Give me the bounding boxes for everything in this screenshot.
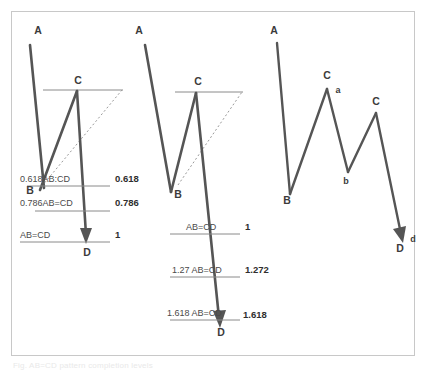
panel-left-level-text-0786: 0.786AB=CD — [20, 198, 73, 208]
panel-right-label-A: A — [270, 24, 278, 36]
panel-middle-dotted-projection — [178, 92, 242, 185]
panel-right-leg-ab — [277, 43, 290, 194]
panel-right-label-C2: C — [372, 95, 380, 107]
panel-left-level-text-0618: 0.618AB:CD — [20, 174, 71, 184]
panel-middle-level-text-1272: 1.27 AB=CD — [172, 265, 222, 275]
panel-right-label-a: a — [335, 85, 341, 95]
panel-left-level-value-0618: 0.618 — [115, 173, 139, 184]
panel-right-label-b: b — [343, 176, 349, 186]
panel-right-label-C1: C — [323, 69, 331, 81]
figure-caption: Fig. AB=CD pattern completion levels — [13, 361, 413, 370]
panel-middle-label-D: D — [217, 326, 225, 338]
panel-left-label-A: A — [34, 24, 42, 36]
panel-left-level-value-0786: 0.786 — [115, 197, 139, 208]
panel-middle: A B C D AB=CD 1 1.27 AB=CD 1.272 1.618 A… — [135, 24, 269, 338]
diagram-canvas: A B C D 0.618AB:CD 0.618 0.786AB=CD 0.78… — [0, 0, 427, 372]
panel-middle-leg-cd — [196, 93, 219, 318]
panel-middle-leg-ab — [145, 45, 171, 192]
panel-right-leg-bc2 — [348, 113, 376, 172]
panel-left-level-value-1: 1 — [115, 229, 121, 240]
panel-right-label-B: B — [283, 194, 291, 206]
panel-middle-label-C: C — [194, 75, 202, 87]
panel-middle-level-value-1272: 1.272 — [245, 264, 269, 275]
panel-left-label-C: C — [74, 74, 82, 86]
panel-middle-label-A: A — [135, 24, 143, 36]
panel-right-label-d: d — [410, 234, 416, 244]
panel-right-arrowhead-d — [393, 226, 406, 243]
panel-middle-label-B: B — [174, 188, 182, 200]
figure-root: A B C D 0.618AB:CD 0.618 0.786AB=CD 0.78… — [0, 0, 427, 372]
panel-right-leg-cb — [327, 89, 348, 172]
panel-middle-level-text-1: AB=CD — [186, 222, 217, 232]
panel-middle-level-value-1: 1 — [245, 221, 251, 232]
panel-left-label-D: D — [83, 246, 91, 258]
panel-middle-level-value-1618: 1.618 — [243, 309, 267, 320]
panel-right-leg-cd — [376, 113, 401, 234]
panel-left-level-text-1: AB=CD — [20, 230, 51, 240]
panel-left: A B C D 0.618AB:CD 0.618 0.786AB=CD 0.78… — [20, 24, 139, 258]
panel-right: A B C a b C D d — [270, 24, 416, 254]
panel-left-label-B: B — [26, 184, 34, 196]
panel-left-price-path — [30, 45, 44, 188]
panel-middle-level-text-1618: 1.618 AB=CD — [167, 308, 222, 318]
panel-right-label-D: D — [396, 242, 404, 254]
panel-right-leg-bc — [290, 89, 327, 194]
panel-left-leg-cd — [77, 91, 86, 235]
